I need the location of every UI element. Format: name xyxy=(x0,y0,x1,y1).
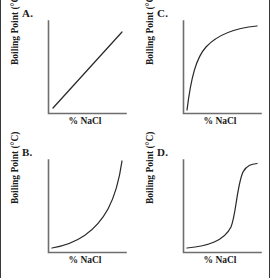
x-axis-label-a: % NaCl xyxy=(41,117,129,127)
axes-b xyxy=(49,160,127,253)
figure-container: A. Boiling Point (°C) % NaCl C. Boiling … xyxy=(0,0,270,278)
axes-d xyxy=(184,160,262,253)
curve-b-exponential xyxy=(52,161,122,248)
curve-d-sigmoid xyxy=(187,164,257,249)
x-axis-label-b: % NaCl xyxy=(41,256,129,266)
x-axis-label-d: % NaCl xyxy=(176,256,264,266)
panel-b: B. Boiling Point (°C) % NaCl xyxy=(1,139,136,278)
panel-c: C. Boiling Point (°C) % NaCl xyxy=(136,0,270,139)
curve-a-linear xyxy=(53,32,122,108)
panel-a: A. Boiling Point (°C) % NaCl xyxy=(1,0,136,139)
curve-c-logarithmic xyxy=(187,26,257,110)
x-axis-label-c: % NaCl xyxy=(176,117,264,127)
panel-d: D. Boiling Point (°C) % NaCl xyxy=(136,139,270,278)
